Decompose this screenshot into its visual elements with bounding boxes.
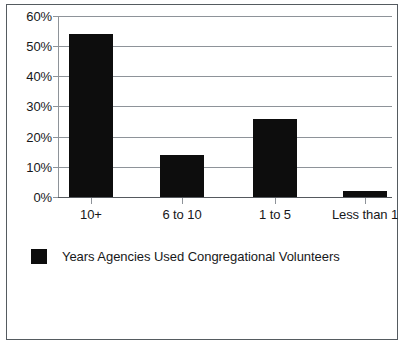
x-tick-mark-1-to-5 [275, 198, 276, 204]
bar-1-to-5 [253, 119, 297, 197]
x-tick-label-less-than-1: Less than 1 [310, 207, 419, 222]
y-tick-label-10: 10% [6, 161, 52, 174]
chart-legend: Years Agencies Used Congregational Volun… [31, 249, 340, 264]
legend-label: Years Agencies Used Congregational Volun… [62, 249, 340, 264]
x-tick-mark-10-plus [91, 198, 92, 204]
legend-color-swatch [31, 249, 47, 264]
y-tick-label-20: 20% [6, 131, 52, 144]
y-tick-label-50: 50% [6, 40, 52, 53]
gridline-60 [58, 16, 392, 17]
bar-10-plus [69, 34, 113, 197]
x-tick-mark-6-to-10 [182, 198, 183, 204]
plot-area [58, 16, 392, 197]
bar-chart-figure: 60% 50% 40% 30% 20% 10% 0% 10+ 6 to 10 1… [0, 0, 419, 348]
y-tick-label-0: 0% [6, 191, 52, 204]
x-tick-mark-less-than-1 [365, 198, 366, 204]
y-tick-label-40: 40% [6, 70, 52, 83]
y-tick-label-60: 60% [6, 10, 52, 23]
bar-6-to-10 [160, 155, 204, 197]
y-tick-label-30: 30% [6, 100, 52, 113]
bar-less-than-1 [343, 191, 387, 197]
y-axis: 60% 50% 40% 30% 20% 10% 0% [0, 0, 52, 348]
x-axis-line [58, 197, 392, 198]
